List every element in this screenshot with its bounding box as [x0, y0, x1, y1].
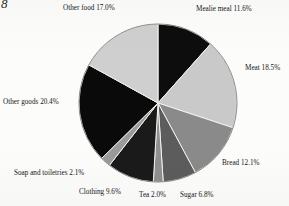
pie-label-other-food: Other food 17.0% — [63, 5, 115, 13]
document-page: 8 Mealie meal 11.6% Meat 18.5% Bread 12.… — [0, 0, 289, 206]
pie-chart: Mealie meal 11.6% Meat 18.5% Bread 12.1%… — [0, 0, 289, 206]
pie-label-clothing: Clothing 9.6% — [79, 189, 121, 197]
pie-label-soap-and-toiletries: Soap and toiletries 2.1% — [14, 170, 84, 178]
pie-label-sugar: Sugar 6.8% — [180, 192, 214, 200]
pie-slice-group — [79, 24, 237, 182]
pie-label-bread: Bread 12.1% — [222, 160, 260, 168]
pie-label-tea: Tea 2.0% — [139, 192, 166, 200]
pie-label-other-goods: Other goods 20.4% — [3, 99, 59, 107]
pie-label-mealie-meal: Mealie meal 11.6% — [196, 6, 252, 14]
pie-label-meat: Meat 18.5% — [245, 65, 280, 73]
